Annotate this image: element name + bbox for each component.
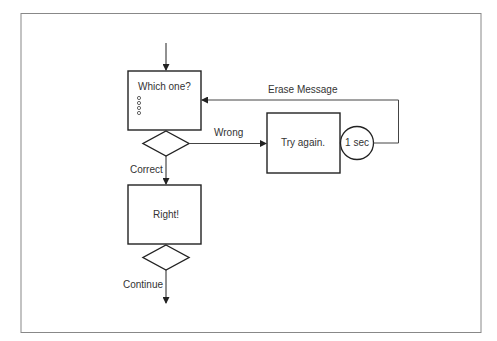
- question-box: [128, 71, 201, 130]
- decision-diamond-1: [143, 131, 189, 156]
- wrong-edge-label: Wrong: [214, 127, 243, 139]
- question-box-label: Which one?: [138, 81, 191, 93]
- decision-diamond-2: [143, 245, 189, 270]
- try-again-label: Try again.: [281, 137, 325, 149]
- flowchart-canvas: [0, 0, 497, 341]
- diagram-frame: [21, 14, 481, 333]
- correct-edge-label: Correct: [130, 164, 163, 176]
- erase-message-label: Erase Message: [268, 84, 337, 96]
- timer-label: 1 sec: [345, 137, 369, 149]
- right-box-label: Right!: [153, 209, 179, 221]
- continue-edge-label: Continue: [123, 279, 163, 291]
